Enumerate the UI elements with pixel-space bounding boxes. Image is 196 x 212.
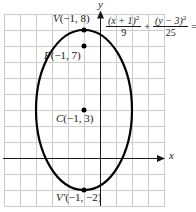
focus-letter: F	[44, 49, 51, 61]
vertex-top-label: V(−1, 8)	[53, 13, 90, 24]
equation-term2-fraction: (y − 3)2 25	[153, 15, 188, 38]
ellipse-equation: (x + 1)2 9 + (y − 3)2 25 = 1	[106, 15, 196, 38]
y-axis-label: y	[98, 0, 103, 10]
equation-term1-numerator: (x + 1)	[108, 15, 136, 26]
ellipse-graph-figure: y x V(−1, 8) F(−1, 7) C(−1, 3) V′(−1, −2…	[0, 0, 196, 212]
x-axis-arrow-icon	[157, 155, 165, 162]
focus-coords: (−1, 7)	[51, 49, 81, 61]
equation-term2-exponent: 2	[183, 14, 187, 22]
equation-result: = 1	[191, 21, 196, 32]
x-axis-label: x	[169, 150, 174, 161]
equation-term2-numerator: (y − 3)	[155, 15, 183, 26]
equation-term1-denominator: 9	[121, 27, 126, 38]
equation-plus-operator: +	[144, 21, 150, 32]
vertex-bottom-label: V′(−1, −2)	[56, 192, 101, 203]
vertex-bottom-letter: V′	[56, 191, 65, 203]
equation-term1-fraction: (x + 1)2 9	[106, 15, 141, 38]
center-coords: (−1, 3)	[63, 112, 93, 124]
equation-term2-denominator: 25	[166, 27, 176, 38]
focus-dot	[82, 44, 87, 49]
center-label: C(−1, 3)	[56, 113, 93, 124]
vertex-top-coords: (−1, 8)	[60, 12, 90, 24]
vertex-top-letter: V	[53, 12, 60, 24]
equation-term1-exponent: 2	[136, 14, 140, 22]
vertex-top-dot	[82, 28, 87, 33]
focus-label: F(−1, 7)	[44, 50, 81, 61]
vertex-bottom-coords: (−1, −2)	[65, 191, 101, 203]
